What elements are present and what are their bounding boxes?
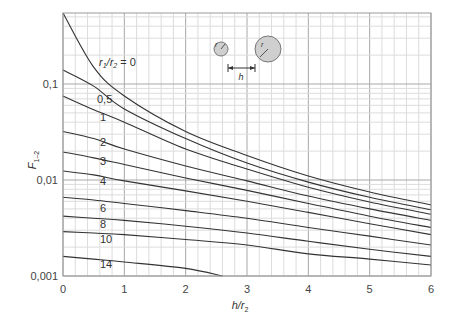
- xtick-5: 5: [367, 283, 373, 295]
- legend-title: r1/r2 = 0: [99, 56, 136, 69]
- curve-labels: 0,51234681014: [97, 93, 112, 270]
- xtick-1: 1: [121, 283, 127, 295]
- curve-label-4: 4: [100, 175, 106, 187]
- curve-label-14: 14: [100, 258, 112, 270]
- curve-label-2: 2: [100, 136, 106, 148]
- curve-label-0,5: 0,5: [97, 93, 112, 105]
- svg-text:F1–2: F1–2: [26, 151, 40, 170]
- curve-label-3: 3: [100, 155, 106, 167]
- xtick-6: 6: [428, 283, 434, 295]
- curve-label-10: 10: [100, 233, 112, 245]
- curve-label-1: 1: [100, 111, 106, 123]
- curve-label-6: 6: [100, 202, 106, 214]
- ytick-0.001: 0,001: [30, 270, 58, 282]
- x-axis-label: h/r2: [232, 299, 249, 313]
- xtick-0: 0: [60, 283, 66, 295]
- curve-label-8: 8: [100, 218, 106, 230]
- xtick-2: 2: [183, 283, 189, 295]
- x-ticks: 0123456: [60, 283, 434, 295]
- chart: 0,1 0,01 0,001 0123456 F1–2 h/r2 r1/r2 =…: [0, 0, 450, 331]
- ytick-0.01: 0,01: [37, 174, 58, 186]
- ytick-0.1: 0,1: [43, 78, 58, 90]
- y-axis-label: F1–2: [26, 151, 40, 170]
- curve-r-14: [63, 256, 222, 276]
- xtick-4: 4: [305, 283, 311, 295]
- inset-h-label: h: [238, 72, 243, 82]
- xtick-3: 3: [244, 283, 250, 295]
